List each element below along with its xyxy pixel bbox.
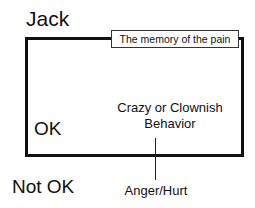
anger-hurt-label: Anger/Hurt: [110, 183, 202, 198]
behavior-label: Crazy or Clownish Behavior: [110, 100, 230, 132]
not-ok-label: Not OK: [12, 176, 74, 198]
behavior-label-line1: Crazy or Clownish: [110, 100, 230, 116]
connector-line: [155, 138, 156, 180]
diagram-title: Jack: [26, 8, 69, 29]
behavior-label-line2: Behavior: [110, 116, 230, 132]
ok-label: OK: [34, 118, 61, 140]
memory-label-box: The memory of the pain: [111, 30, 239, 48]
